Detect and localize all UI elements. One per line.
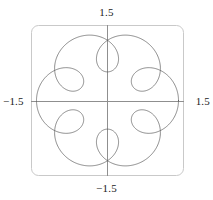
axis-label-right: 1.5 — [196, 96, 210, 107]
plot-canvas — [0, 0, 213, 200]
parametric-plot-figure: 1.5 −1.5 −1.5 1.5 — [0, 0, 213, 200]
axis-label-top: 1.5 — [0, 7, 213, 18]
axis-label-bottom: −1.5 — [0, 183, 213, 194]
axis-label-left: −1.5 — [3, 96, 24, 107]
